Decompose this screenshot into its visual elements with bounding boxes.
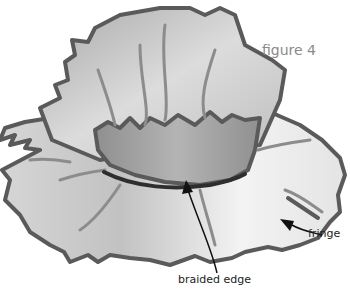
figure-title: figure 4: [262, 42, 316, 58]
label-fringe: fringe: [308, 227, 340, 240]
label-braided-edge: braided edge: [178, 273, 251, 286]
